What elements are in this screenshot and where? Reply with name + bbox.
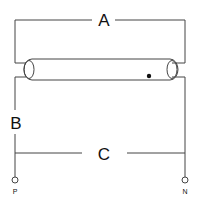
fluorescent-tube — [24, 59, 178, 80]
wiring-diagram: A B C P N — [0, 0, 202, 205]
label-c: C — [98, 145, 110, 164]
label-a: A — [98, 11, 110, 30]
terminal-n-icon — [182, 177, 188, 183]
terminal-p-label: P — [13, 188, 18, 195]
terminal-n-label: N — [182, 188, 187, 195]
label-b: B — [10, 114, 21, 133]
tube-dot-marker — [147, 74, 151, 78]
wire-right — [172, 77, 185, 177]
terminal-p-icon — [12, 177, 18, 183]
